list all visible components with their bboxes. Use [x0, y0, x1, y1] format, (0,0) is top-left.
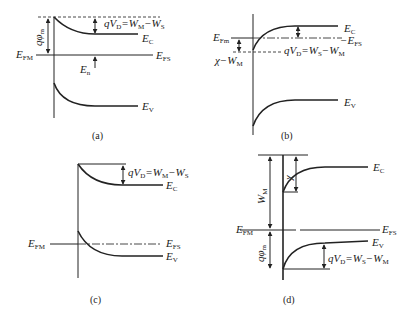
qvd-label: qVD=WS−WM	[328, 252, 389, 266]
ev-label: EV	[371, 236, 384, 250]
chi-label: χ−WM	[214, 54, 243, 68]
efm-label: EFM	[15, 48, 34, 62]
panel-b: EFm χ−WM qVD=WS−WM EC −EFS EV (b)	[212, 14, 362, 142]
efs-label: EFS	[381, 223, 397, 237]
efm-label: EFM	[235, 223, 254, 237]
ev-label: EV	[141, 100, 154, 114]
valence-band-curve	[54, 83, 138, 106]
panel-c: qVD=WM−WS EC EFM EFS EV (c)	[27, 164, 189, 306]
panel-d-caption: (d)	[283, 294, 295, 306]
ev-label: EV	[165, 250, 178, 264]
ec-label: EC	[165, 179, 178, 193]
efm-label: EFm	[212, 31, 230, 45]
qvd-label: qVD=WS−WM	[284, 44, 345, 58]
qvd-label: qVD=WM−WS	[128, 166, 189, 180]
panel-b-caption: (b)	[281, 130, 293, 142]
ec-label: EC	[141, 32, 154, 46]
qvd-label: qVD=WM−WS	[104, 17, 165, 31]
ec-label: EC	[372, 161, 385, 175]
panel-a: qφm qVD=WM−WS EC EFM EFS En EV (a)	[15, 17, 171, 142]
efs-label: EFS	[155, 49, 171, 63]
panel-d: WM χ EC EFM EFS qφm EV qVD=WS−WM (d)	[235, 155, 397, 306]
qphi-label: qφm	[254, 244, 268, 262]
qphi-label: qφm	[32, 28, 46, 46]
panel-c-caption: (c)	[90, 294, 101, 306]
valence-band-curve	[253, 100, 338, 126]
en-label: En	[79, 63, 91, 77]
valence-band-curve	[78, 231, 163, 256]
efs-label: −EFS	[340, 34, 362, 48]
efm-label: EFM	[27, 237, 46, 251]
wm-label: WM	[255, 188, 269, 204]
efs-label: EFS	[165, 237, 181, 251]
ev-label: EV	[343, 96, 356, 110]
band-diagram-figure: qφm qVD=WM−WS EC EFM EFS En EV (a) EFm χ…	[0, 0, 408, 313]
panel-a-caption: (a)	[92, 130, 103, 142]
